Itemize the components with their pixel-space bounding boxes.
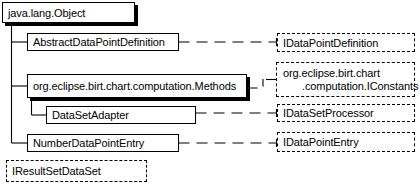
class-label: org.eclipse.birt.chart.computation.Metho… [33,80,236,92]
class-label: DataSetAdapter [52,109,129,121]
interface-node-i-result-set-data-set[interactable]: IResultSetDataSet [6,160,147,182]
interface-node-i-data-set-processor[interactable]: IDataSetProcessor [277,104,415,122]
class-node-data-set-adapter[interactable]: DataSetAdapter [46,106,196,124]
class-node-java-lang-object[interactable]: java.lang.Object [2,2,135,23]
interface-label: IDataPointDefinition [283,37,378,49]
interface-label: IDataPointEntry [283,136,359,148]
class-node-methods[interactable]: org.eclipse.birt.chart.computation.Metho… [27,74,247,98]
interface-node-i-data-point-definition[interactable]: IDataPointDefinition [277,33,415,52]
interface-label: IResultSetDataSet [12,165,101,177]
class-label: NumberDataPointEntry [33,137,144,149]
interface-node-i-data-point-entry[interactable]: IDataPointEntry [277,132,415,152]
uml-class-diagram: java.lang.Object AbstractDataPointDefini… [0,0,420,187]
interface-label: IDataSetProcessor [283,107,374,119]
interface-node-i-constants[interactable]: org.eclipse.birt.chart .computation.ICon… [276,62,415,97]
interface-label-line1: org.eclipse.birt.chart [283,67,414,80]
realize-methods-to-iconstants [247,79,264,88]
class-node-abstract-data-point-definition[interactable]: AbstractDataPointDefinition [27,33,179,51]
interface-label-line2: .computation.IConstants [283,80,414,93]
class-node-number-data-point-entry[interactable]: NumberDataPointEntry [27,134,179,152]
class-label: java.lang.Object [8,7,85,19]
class-label: AbstractDataPointDefinition [33,36,165,48]
